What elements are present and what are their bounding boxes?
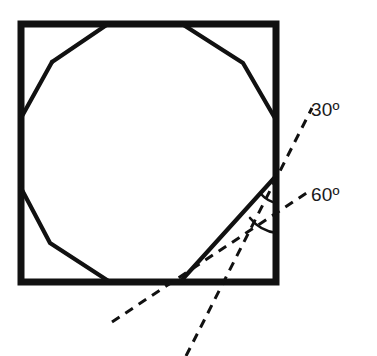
polygon-side-top-left xyxy=(52,24,108,62)
polygon-side-upper-left xyxy=(21,62,52,118)
angle-label-30: 30º xyxy=(311,100,340,119)
angle-label-60-text: 60º xyxy=(311,184,340,205)
polygon-side-top-right xyxy=(182,24,276,120)
angle-label-30-text: 30º xyxy=(311,99,340,120)
geometry-figure: 30º 60º xyxy=(0,0,377,356)
outer-square xyxy=(21,24,276,282)
inscribed-dodecagon xyxy=(21,24,276,282)
angle-label-60: 60º xyxy=(311,185,340,204)
diagram-canvas xyxy=(0,0,377,356)
polygon-side-lower-left xyxy=(21,188,110,282)
